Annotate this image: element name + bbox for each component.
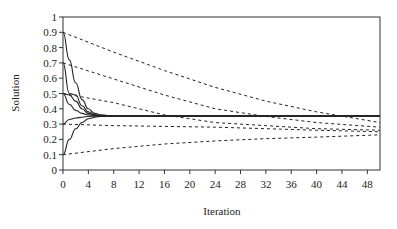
- series-layer: [63, 32, 380, 154]
- y-axis: 00.10.20.30.40.50.60.70.80.91: [43, 11, 63, 176]
- x-axis-title: Iteration: [203, 205, 241, 217]
- x-tick-label: 4: [86, 178, 92, 190]
- x-tick-label: 32: [260, 178, 271, 190]
- x-tick-label: 8: [111, 178, 117, 190]
- series-line: [63, 63, 380, 127]
- y-axis-title: Solution: [9, 74, 21, 112]
- x-tick-label: 16: [159, 178, 171, 190]
- y-tick-label: 0.9: [43, 26, 57, 38]
- x-tick-label: 36: [286, 178, 298, 190]
- x-tick-label: 0: [60, 178, 66, 190]
- y-tick-label: 0.8: [43, 42, 57, 54]
- y-tick-label: 0.5: [43, 88, 57, 100]
- plot-area-frame: [63, 17, 380, 170]
- series-line: [63, 32, 380, 122]
- y-tick-label: 0.1: [43, 149, 57, 161]
- series-line: [63, 116, 380, 124]
- x-axis: 04812162024283236404448: [60, 170, 373, 190]
- y-tick-label: 0.4: [43, 103, 57, 115]
- x-tick-label: 12: [134, 178, 145, 190]
- series-line: [63, 94, 380, 131]
- y-tick-label: 0.7: [43, 57, 57, 69]
- chart: 00.10.20.30.40.50.60.70.80.91 0481216202…: [0, 0, 397, 229]
- x-tick-label: 20: [184, 178, 196, 190]
- series-line: [63, 116, 380, 155]
- x-tick-label: 40: [311, 178, 323, 190]
- x-tick-label: 24: [210, 178, 222, 190]
- series-line: [63, 94, 380, 116]
- y-tick-label: 0.3: [43, 118, 57, 130]
- y-tick-label: 0.6: [43, 72, 57, 84]
- y-tick-label: 0: [52, 164, 58, 176]
- y-tick-label: 1: [52, 11, 58, 23]
- x-tick-label: 48: [362, 178, 374, 190]
- x-tick-label: 44: [336, 178, 348, 190]
- series-line: [63, 32, 380, 116]
- series-line: [63, 94, 380, 116]
- series-line: [63, 135, 380, 155]
- series-line: [63, 124, 380, 132]
- x-tick-label: 28: [235, 178, 247, 190]
- y-tick-label: 0.2: [43, 133, 57, 145]
